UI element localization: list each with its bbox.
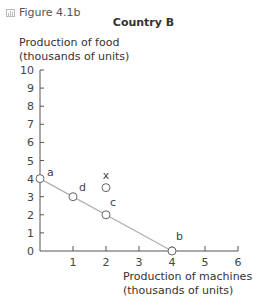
point-label-c: c xyxy=(110,196,116,209)
x-tick-label: 6 xyxy=(235,256,242,269)
y-tick-label: 10 xyxy=(20,64,34,77)
point-label-a: a xyxy=(47,166,54,179)
x-tick-label: 3 xyxy=(136,256,143,269)
x-tick-label: 4 xyxy=(169,256,176,269)
y-tick-label: 1 xyxy=(27,227,34,240)
y-tick-label: 6 xyxy=(27,136,34,149)
y-tick-label: 2 xyxy=(27,209,34,222)
y-tick-label: 8 xyxy=(27,100,34,113)
y-tick-label: 3 xyxy=(27,191,34,204)
y-tick-label: 4 xyxy=(27,173,34,186)
y-tick-label: 9 xyxy=(27,82,34,95)
y-tick-label: 0 xyxy=(27,245,34,258)
x-tick-label: 2 xyxy=(103,256,110,269)
x-tick-label: 1 xyxy=(70,256,77,269)
point-marker-x xyxy=(102,184,110,192)
x-tick-label: 5 xyxy=(202,256,209,269)
point-marker-c xyxy=(102,211,110,219)
chart-plot-area: 012345678910123456adcbx xyxy=(0,0,257,308)
point-label-b: b xyxy=(176,230,183,243)
point-marker-a xyxy=(36,175,44,183)
point-label-x: x xyxy=(103,169,110,182)
point-marker-d xyxy=(69,193,77,201)
point-label-d: d xyxy=(79,181,86,194)
y-tick-label: 5 xyxy=(27,155,34,168)
y-tick-label: 7 xyxy=(27,118,34,131)
point-marker-b xyxy=(168,247,176,255)
